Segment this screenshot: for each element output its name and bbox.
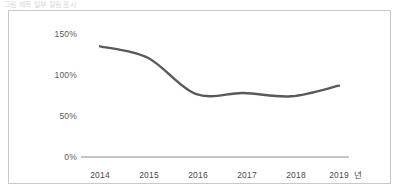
data-series-line [100, 46, 339, 96]
x-axis-tick-2019: 2019 [319, 170, 359, 181]
chart-svg [9, 11, 392, 185]
x-axis-tick-2017: 2017 [227, 170, 267, 181]
chart-frame: 150% 100% 50% 0% 2014 2015 2016 2017 201… [8, 10, 391, 184]
x-axis-tick-2018: 2018 [276, 170, 316, 181]
x-axis-tick-2015: 2015 [129, 170, 169, 181]
x-axis-unit-label: 년 [354, 170, 362, 181]
line-chart-plot-area: 150% 100% 50% 0% 2014 2015 2016 2017 201… [9, 11, 390, 183]
x-axis-tick-2014: 2014 [80, 170, 120, 181]
x-axis-tick-2016: 2016 [178, 170, 218, 181]
cropped-title-strip: 그림 제목 일부 잘림 표시 [4, 0, 164, 9]
